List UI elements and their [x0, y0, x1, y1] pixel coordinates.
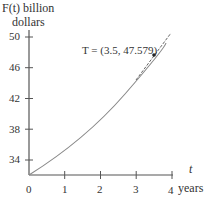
x-axis-unit-label: years [178, 182, 203, 194]
x-tick-2: 2 [97, 184, 103, 195]
y-axis-label-line2: dollars [12, 16, 45, 28]
x-axis-var-label: t [189, 163, 192, 175]
y-axis-label-line1: F(t) billion [2, 2, 54, 14]
y-tick-50: 50 [9, 31, 20, 42]
curve-F [29, 43, 166, 175]
x-tick-0: 0 [26, 184, 32, 195]
y-tick-46: 46 [9, 62, 20, 73]
x-tick-1: 1 [62, 184, 68, 195]
y-tick-34: 34 [9, 154, 20, 165]
point-annotation: T = (3.5, 47.579) [82, 44, 157, 56]
y-tick-42: 42 [9, 93, 20, 104]
chart-plot [0, 0, 205, 202]
x-tick-3: 3 [133, 184, 139, 195]
y-tick-38: 38 [9, 124, 20, 135]
x-tick-4: 4 [168, 185, 174, 196]
